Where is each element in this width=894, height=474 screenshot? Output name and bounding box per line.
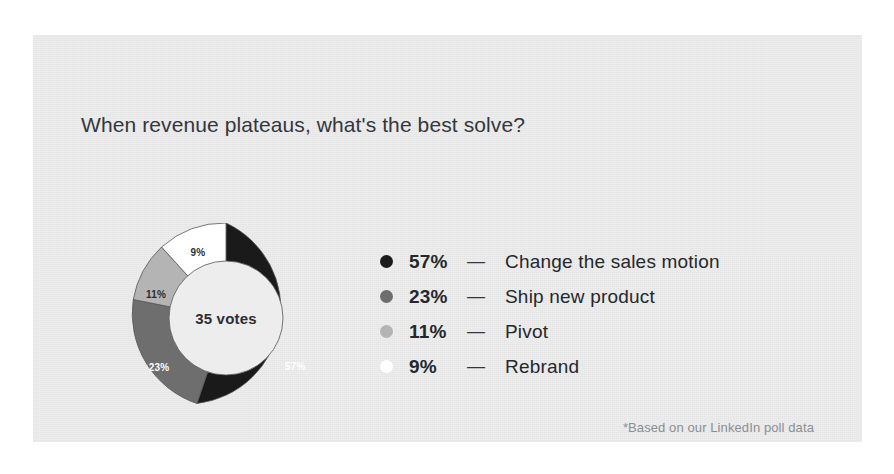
legend-swatch-icon <box>380 290 393 303</box>
legend-percent: 11% <box>409 321 467 343</box>
legend-swatch-icon <box>380 360 393 373</box>
slice-label-11: 11% <box>146 289 166 300</box>
legend-percent: 57% <box>409 251 467 273</box>
poll-card: When revenue plateaus, what's the best s… <box>33 35 862 442</box>
legend-dash: — <box>467 251 505 272</box>
legend-item-change-the-sales-motion: 57% — Change the sales motion <box>380 244 850 279</box>
slice-label-9: 9% <box>191 247 206 258</box>
page-title: When revenue plateaus, what's the best s… <box>81 113 525 137</box>
legend-item-ship-new-product: 23% — Ship new product <box>380 279 850 314</box>
donut-hole <box>169 261 283 375</box>
legend-label: Ship new product <box>505 286 655 308</box>
legend-swatch-icon <box>380 255 393 268</box>
footnote: *Based on our LinkedIn poll data <box>33 420 814 435</box>
donut-chart-svg: 57% 23% 11% 9% <box>131 223 321 413</box>
legend-swatch-icon <box>380 325 393 338</box>
legend-dash: — <box>467 286 505 307</box>
donut-slices <box>132 223 283 404</box>
legend-item-rebrand: 9% — Rebrand <box>380 349 850 384</box>
legend-item-pivot: 11% — Pivot <box>380 314 850 349</box>
chart-legend: 57% — Change the sales motion 23% — Ship… <box>380 244 850 384</box>
poll-result-graphic: When revenue plateaus, what's the best s… <box>0 0 894 474</box>
legend-dash: — <box>467 356 505 377</box>
slice-label-23: 23% <box>149 362 170 373</box>
slice-label-57: 57% <box>285 361 306 372</box>
donut-chart: 57% 23% 11% 9% 35 votes <box>131 223 321 413</box>
legend-label: Pivot <box>505 321 548 343</box>
legend-label: Change the sales motion <box>505 251 720 273</box>
legend-label: Rebrand <box>505 356 579 378</box>
legend-percent: 9% <box>409 356 467 378</box>
legend-dash: — <box>467 321 505 342</box>
legend-percent: 23% <box>409 286 467 308</box>
